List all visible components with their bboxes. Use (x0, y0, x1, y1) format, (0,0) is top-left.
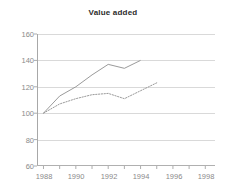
y-axis-label-140: 140 (12, 56, 34, 65)
y-axis-label-120: 120 (12, 83, 34, 92)
y-axis-label-100: 100 (12, 109, 34, 118)
x-axis-label-1998: 1998 (190, 172, 222, 181)
x-axis-ticks (43, 166, 205, 169)
y-axis-ticks (34, 34, 37, 166)
dotted-series-line (43, 83, 156, 113)
y-axis-label-60: 60 (12, 162, 34, 171)
value-added-chart: Value added 160 140 120 100 80 60 1988 1… (0, 0, 226, 194)
x-axis-label-1988: 1988 (28, 172, 60, 181)
chart-title: Value added (0, 8, 226, 17)
y-axis-label-160: 160 (12, 30, 34, 39)
x-axis-label-1994: 1994 (125, 172, 157, 181)
series-container (37, 34, 215, 166)
x-axis-label-1990: 1990 (60, 172, 92, 181)
y-axis-label-80: 80 (12, 136, 34, 145)
plot-area (37, 34, 215, 166)
x-axis-label-1992: 1992 (93, 172, 125, 181)
x-axis-label-1996: 1996 (158, 172, 190, 181)
